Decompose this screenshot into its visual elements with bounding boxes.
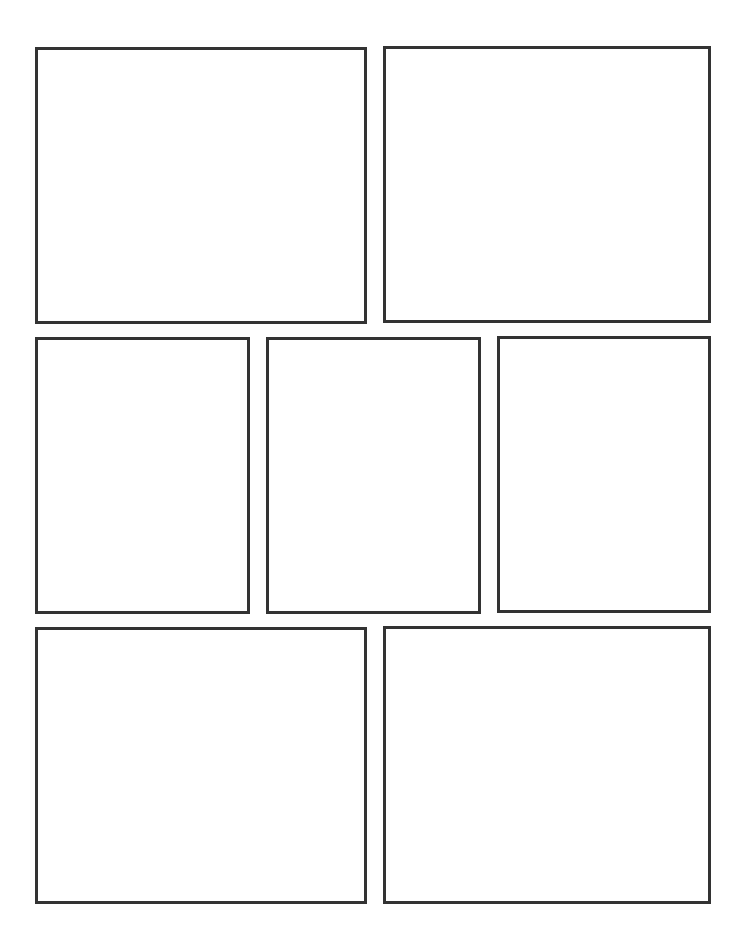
comic-panel-7 <box>383 626 711 904</box>
comic-page-template <box>0 0 741 938</box>
comic-panel-3 <box>35 337 250 614</box>
comic-panel-6 <box>35 627 367 904</box>
comic-panel-5 <box>497 336 711 613</box>
comic-panel-4 <box>266 337 481 614</box>
comic-panel-1 <box>35 47 367 324</box>
comic-panel-2 <box>383 46 711 323</box>
